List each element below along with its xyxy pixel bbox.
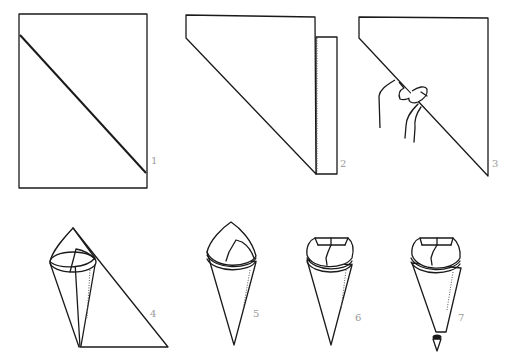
step-label-6: 6 [355, 313, 361, 323]
step-6-folded-cone [307, 238, 353, 345]
step-4-rolling-cone [50, 228, 168, 347]
step-7-cut-cone [411, 238, 461, 351]
step-label-5: 5 [253, 309, 259, 319]
step-2-folded-paper [186, 15, 337, 174]
step-label-1: 1 [151, 156, 157, 166]
step-label-4: 4 [150, 309, 156, 319]
hand-icon [379, 80, 427, 142]
cut-tip [433, 335, 442, 352]
step-label-7: 7 [458, 313, 464, 323]
piping-cone-folding-diagram: 1 2 3 4 5 6 7 [0, 0, 507, 362]
step-1-rectangle-with-diagonal [19, 14, 147, 188]
step-label-3: 3 [492, 159, 498, 169]
step-3-held-triangle [359, 17, 488, 176]
step-5-cone [207, 222, 256, 345]
step-label-2: 2 [340, 159, 346, 169]
